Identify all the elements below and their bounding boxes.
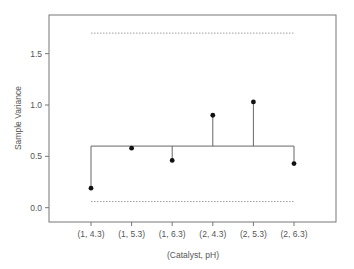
data-point	[129, 146, 134, 151]
control-limits	[91, 33, 294, 201]
x-axis-title: (Catalyst, pH)	[167, 250, 219, 260]
y-axis-title: Sample Variance	[13, 86, 23, 150]
y-tick-label: 0.0	[30, 203, 42, 213]
x-tick-label: (1, 6.3)	[159, 229, 186, 239]
data-point	[251, 100, 256, 105]
x-tick-label: (1, 4.3)	[78, 229, 105, 239]
data-point	[292, 161, 297, 166]
x-tick-label: (2, 4.3)	[199, 229, 226, 239]
variance-chart: 0.00.51.01.5 (1, 4.3)(1, 5.3)(1, 6.3)(2,…	[0, 0, 354, 269]
x-tick-label: (1, 5.3)	[118, 229, 145, 239]
y-tick-label: 1.5	[30, 49, 42, 59]
y-tick-label: 1.0	[30, 100, 42, 110]
data-points	[89, 100, 297, 191]
data-point	[210, 113, 215, 118]
y-axis: 0.00.51.01.5	[30, 49, 49, 213]
x-tick-label: (2, 5.3)	[240, 229, 267, 239]
plot-frame	[49, 15, 336, 222]
x-tick-label: (2, 6.3)	[281, 229, 308, 239]
data-point	[89, 186, 94, 191]
x-axis: (1, 4.3)(1, 5.3)(1, 6.3)(2, 4.3)(2, 5.3)…	[78, 222, 308, 239]
y-tick-label: 0.5	[30, 151, 42, 161]
data-point	[170, 158, 175, 163]
